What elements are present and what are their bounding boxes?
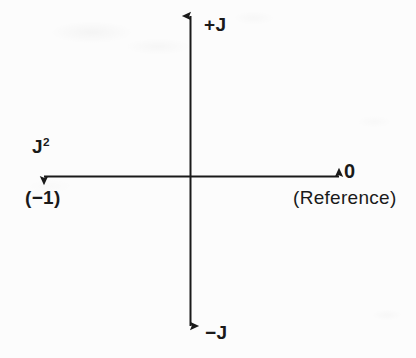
label-zero: 0 — [344, 161, 355, 181]
label-minus-one: (−1) — [25, 188, 61, 207]
label-positive-imaginary: +J — [204, 15, 226, 34]
label-reference: (Reference) — [293, 188, 397, 207]
label-j-squared: J2 — [32, 137, 50, 156]
label-j-squared-base: J — [32, 136, 43, 157]
figure-canvas: +J −J J2 (−1) 0 (Reference) — [0, 0, 416, 358]
label-j-squared-exponent: 2 — [43, 135, 50, 148]
label-negative-imaginary: −J — [205, 323, 227, 342]
